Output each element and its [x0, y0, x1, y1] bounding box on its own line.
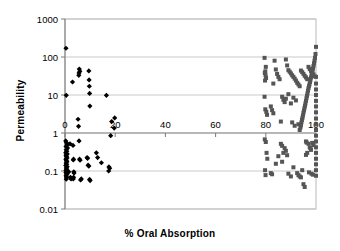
data-point-square: [289, 101, 293, 105]
data-point-square: [296, 122, 300, 126]
data-point-square: [294, 98, 298, 102]
data-point-square: [293, 124, 297, 128]
x-tick-label: 40: [160, 119, 171, 130]
data-point-square: [314, 151, 318, 155]
data-point-square: [309, 148, 313, 152]
data-point-square: [303, 185, 307, 189]
data-point-square: [298, 84, 302, 88]
data-point-square: [264, 173, 268, 177]
data-point-square: [285, 63, 289, 67]
data-point-square: [314, 157, 318, 161]
data-point-square: [285, 153, 289, 157]
data-point-square: [274, 67, 278, 71]
scatter-plot: 0.010.11101001000 020406080100: [0, 0, 340, 251]
data-point-square: [265, 157, 269, 161]
plot-frame: [65, 19, 316, 209]
data-point-square: [270, 172, 274, 176]
y-tick-label: 1000: [37, 14, 58, 25]
data-point-square: [314, 93, 318, 97]
data-point-square: [314, 134, 318, 138]
data-point-square: [291, 165, 295, 169]
data-point-square: [305, 151, 309, 155]
data-point-square: [283, 100, 287, 104]
x-tick-label: 60: [210, 119, 221, 130]
data-point-square: [298, 128, 302, 132]
data-point-square: [314, 87, 318, 91]
y-tick-label: 10: [47, 90, 58, 101]
data-point-square: [314, 110, 318, 114]
data-point-square: [313, 52, 317, 56]
data-point-square: [314, 117, 318, 121]
data-point-square: [271, 82, 275, 86]
data-point-square: [289, 174, 293, 178]
data-point-square: [314, 82, 318, 86]
data-point-square: [276, 154, 280, 158]
data-point-square: [311, 143, 315, 147]
y-tick-label: 1: [53, 128, 58, 139]
data-point-square: [314, 75, 318, 79]
data-point-square: [265, 113, 269, 117]
data-point-square: [263, 56, 267, 60]
data-point-square: [264, 140, 268, 144]
data-point-square: [280, 160, 284, 164]
data-point-square: [265, 151, 269, 155]
data-point-square: [274, 162, 278, 166]
data-point-square: [269, 104, 273, 108]
data-point-square: [314, 45, 318, 49]
data-point-square: [264, 65, 268, 69]
data-point-square: [281, 151, 285, 155]
data-point-square: [263, 79, 267, 83]
data-point-square: [278, 77, 282, 81]
data-point-square: [314, 128, 318, 132]
data-point-square: [314, 168, 318, 172]
chart-figure: 0.010.11101001000 020406080100 % Oral Ab…: [0, 0, 340, 251]
data-point-square: [299, 175, 303, 179]
data-point-square: [263, 95, 267, 99]
data-point-square: [286, 92, 290, 96]
data-point-square: [263, 168, 267, 172]
y-tick-labels: 0.010.11101001000: [37, 14, 58, 215]
data-point-square: [300, 168, 304, 172]
data-point-square: [314, 162, 318, 166]
y-tick-label: 0.1: [45, 166, 58, 177]
x-tick-label: 0: [62, 119, 67, 130]
data-point-square: [314, 139, 318, 143]
data-point-square: [284, 57, 288, 61]
data-point-square: [305, 141, 309, 145]
data-point-square: [311, 173, 315, 177]
x-axis-title: % Oral Absorption: [0, 228, 340, 239]
x-tick-label: 80: [261, 119, 272, 130]
data-point-square: [271, 111, 275, 115]
y-tick-label: 0.01: [40, 204, 59, 215]
data-point-square: [273, 59, 277, 63]
data-point-square: [314, 104, 318, 108]
data-point-square: [314, 122, 318, 126]
y-axis-title: Permeability: [15, 41, 26, 181]
data-point-square: [314, 99, 318, 103]
data-point-square: [284, 97, 288, 101]
y-tick-label: 100: [42, 52, 58, 63]
data-point-square: [279, 120, 283, 124]
